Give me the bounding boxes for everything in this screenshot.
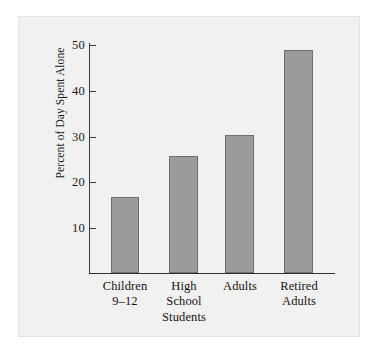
y-axis-line bbox=[89, 43, 90, 274]
y-tick-mark-20 bbox=[90, 182, 96, 183]
y-tick-label-20: 20 bbox=[45, 176, 85, 189]
bar-adults bbox=[225, 135, 254, 273]
x-category-line: Students bbox=[144, 310, 224, 325]
x-category-line: Retired bbox=[259, 279, 339, 294]
y-tick-mark-30 bbox=[90, 137, 96, 138]
x-category-line: Adults bbox=[259, 294, 339, 309]
y-tick-mark-10 bbox=[90, 228, 96, 229]
x-category-line: School bbox=[144, 294, 224, 309]
y-tick-mark-50 bbox=[90, 45, 96, 46]
figure-frame: Percent of Day Spent Alone 50 40 30 20 1… bbox=[18, 16, 360, 337]
y-tick-label-40: 40 bbox=[45, 85, 85, 98]
bar-children-9-12 bbox=[111, 197, 139, 273]
x-axis-line bbox=[89, 273, 335, 274]
bar-chart-plot-area: Percent of Day Spent Alone 50 40 30 20 1… bbox=[19, 17, 361, 338]
bar-high-school-students bbox=[169, 156, 198, 273]
x-category-label-retired-adults: Retired Adults bbox=[259, 279, 339, 310]
y-axis-title: Percent of Day Spent Alone bbox=[54, 28, 66, 198]
y-tick-mark-40 bbox=[90, 91, 96, 92]
y-tick-label-10: 10 bbox=[45, 222, 85, 235]
bar-retired-adults bbox=[284, 50, 313, 273]
y-tick-label-30: 30 bbox=[45, 131, 85, 144]
y-tick-label-50: 50 bbox=[45, 39, 85, 52]
